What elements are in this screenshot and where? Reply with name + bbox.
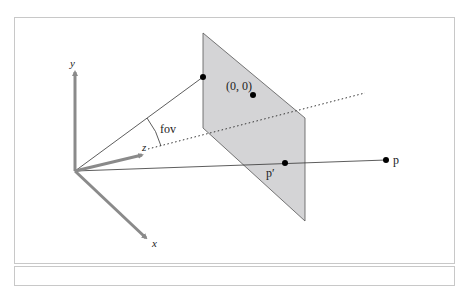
projected-point-label: p′: [266, 166, 275, 180]
projected-point: [282, 160, 288, 166]
fov-label: fov: [160, 122, 176, 136]
z-axis-label: z: [141, 141, 147, 153]
x-axis: [75, 171, 146, 238]
ray-to-p: [75, 160, 386, 171]
world-point: [383, 157, 389, 163]
plane-center-label: (0, 0): [226, 79, 252, 93]
plane-edge-point: [200, 74, 206, 80]
x-axis-label: x: [151, 237, 157, 249]
fov-arc: [147, 118, 161, 146]
image-plane: [203, 33, 305, 221]
world-point-label: p: [393, 153, 399, 167]
y-axis-label: y: [69, 57, 75, 69]
